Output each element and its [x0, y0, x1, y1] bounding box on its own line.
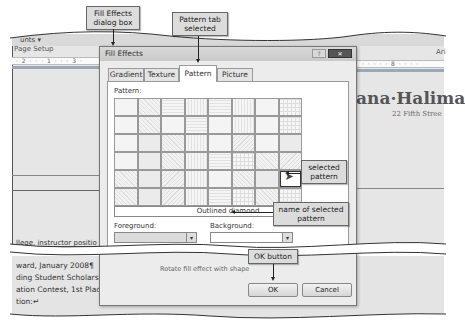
ruler-right: · · · · · 8 · · · ·	[356, 60, 444, 68]
rotate-with-shape-checkbox-label[interactable]: Rotate fill effect with shape	[160, 265, 249, 273]
pattern-swatch[interactable]	[280, 153, 302, 169]
document-text-line: ding Student Scholarshi	[16, 273, 105, 282]
pattern-swatch[interactable]	[256, 135, 278, 151]
pattern-swatch[interactable]	[115, 117, 137, 133]
callout-leader	[198, 36, 199, 60]
foreground-label: Foreground:	[114, 222, 156, 230]
ribbon-tab-fragment[interactable]: unts ▾	[20, 36, 41, 44]
document-rule	[12, 190, 100, 191]
cancel-button[interactable]: Cancel	[302, 283, 352, 297]
ruler-band-right	[356, 69, 444, 72]
close-icon: ✕	[337, 50, 342, 57]
document-name-heading: ana·Halima	[356, 88, 465, 108]
callout-leader	[113, 29, 114, 43]
arrow-icon	[285, 171, 289, 175]
pattern-swatch[interactable]	[115, 171, 137, 187]
tab-pattern[interactable]: Pattern	[179, 65, 217, 82]
dialog-title: Fill Effects	[105, 49, 143, 58]
close-button[interactable]: ✕	[328, 49, 352, 58]
document-rule	[12, 175, 100, 176]
callout-leader	[273, 264, 274, 278]
pattern-swatch[interactable]	[139, 117, 161, 133]
pattern-swatch[interactable]	[209, 99, 231, 115]
pattern-swatch[interactable]	[186, 99, 208, 115]
document-rule	[356, 188, 444, 189]
pattern-swatch[interactable]	[233, 99, 255, 115]
pattern-swatch[interactable]	[209, 135, 231, 151]
pattern-swatch[interactable]	[162, 153, 184, 169]
pattern-swatch[interactable]	[233, 189, 255, 205]
pattern-swatch[interactable]	[186, 135, 208, 151]
pattern-swatch[interactable]	[139, 189, 161, 205]
ok-button[interactable]: OK	[248, 283, 298, 297]
document-text-line: ward, January 2008¶	[16, 261, 94, 270]
pattern-swatch[interactable]	[256, 117, 278, 133]
background-label: Background:	[210, 222, 254, 230]
pattern-label: Pattern:	[114, 87, 142, 95]
pattern-swatch[interactable]	[233, 153, 255, 169]
pattern-swatch[interactable]	[139, 135, 161, 151]
pattern-swatch[interactable]	[233, 171, 255, 187]
pattern-swatch[interactable]	[233, 117, 255, 133]
pattern-grid: ➤	[114, 98, 302, 206]
page-setup-group-label: Page Setup	[14, 45, 54, 53]
pattern-swatch[interactable]	[186, 189, 208, 205]
callout-ok-button: OK button	[248, 249, 298, 264]
pattern-swatch[interactable]	[162, 189, 184, 205]
ruler-band-left	[12, 66, 100, 69]
font-name-fragment: Ari	[436, 48, 446, 56]
document-address: 22 Fifth Stree	[392, 110, 442, 118]
callout-leader	[235, 212, 273, 213]
pattern-swatch[interactable]	[162, 135, 184, 151]
pattern-swatch[interactable]	[209, 171, 231, 187]
help-button[interactable]: ?	[312, 49, 326, 58]
arrow-icon	[111, 42, 115, 46]
pattern-swatch[interactable]	[186, 171, 208, 187]
tab-gradient[interactable]: Gradient	[108, 68, 144, 81]
pattern-swatch[interactable]	[209, 153, 231, 169]
pattern-swatch[interactable]	[162, 99, 184, 115]
pattern-swatch[interactable]	[162, 117, 184, 133]
dialog-titlebar[interactable]: Fill Effects ? ✕	[100, 47, 356, 61]
torn-edge-top	[10, 28, 446, 44]
pattern-swatch[interactable]	[139, 171, 161, 187]
callout-selected-pattern: selected pattern	[301, 160, 347, 184]
pattern-swatch[interactable]	[115, 99, 137, 115]
document-text-line: ation Contest, 1st Place,	[16, 285, 107, 294]
tab-texture[interactable]: Texture	[144, 68, 179, 81]
pattern-swatch[interactable]	[233, 135, 255, 151]
pattern-swatch[interactable]	[280, 99, 302, 115]
arrow-icon	[271, 277, 275, 281]
callout-pattern-tab: Pattern tab selected	[172, 12, 228, 36]
document-text-line: tion:↵	[16, 297, 39, 306]
callout-leader	[289, 173, 301, 174]
pattern-swatch[interactable]	[139, 99, 161, 115]
pattern-swatch[interactable]	[280, 135, 302, 151]
pattern-swatch[interactable]	[280, 117, 302, 133]
torn-edge-bottom	[10, 308, 446, 330]
pattern-swatch[interactable]	[115, 135, 137, 151]
pattern-swatch[interactable]	[209, 189, 231, 205]
pattern-swatch[interactable]	[139, 153, 161, 169]
pattern-swatch[interactable]	[115, 153, 137, 169]
pattern-swatch[interactable]	[186, 153, 208, 169]
help-icon: ?	[317, 50, 320, 57]
arrow-icon	[196, 59, 200, 63]
pattern-swatch[interactable]	[209, 117, 231, 133]
pattern-swatch[interactable]	[115, 189, 137, 205]
torn-edge-middle	[0, 238, 459, 260]
pattern-swatch[interactable]	[256, 153, 278, 169]
pattern-swatch[interactable]	[256, 171, 278, 187]
pattern-swatch[interactable]	[186, 117, 208, 133]
pattern-swatch[interactable]	[256, 99, 278, 115]
callout-pattern-name: name of selected pattern	[273, 202, 349, 226]
tab-picture[interactable]: Picture	[217, 68, 253, 81]
pattern-swatch[interactable]	[162, 171, 184, 187]
ruler-left: · 2 · · · 1 · · · 3 ·	[12, 57, 102, 65]
callout-fill-effects-dialog: Fill Effects dialog box	[86, 6, 140, 30]
arrow-icon	[231, 210, 235, 214]
